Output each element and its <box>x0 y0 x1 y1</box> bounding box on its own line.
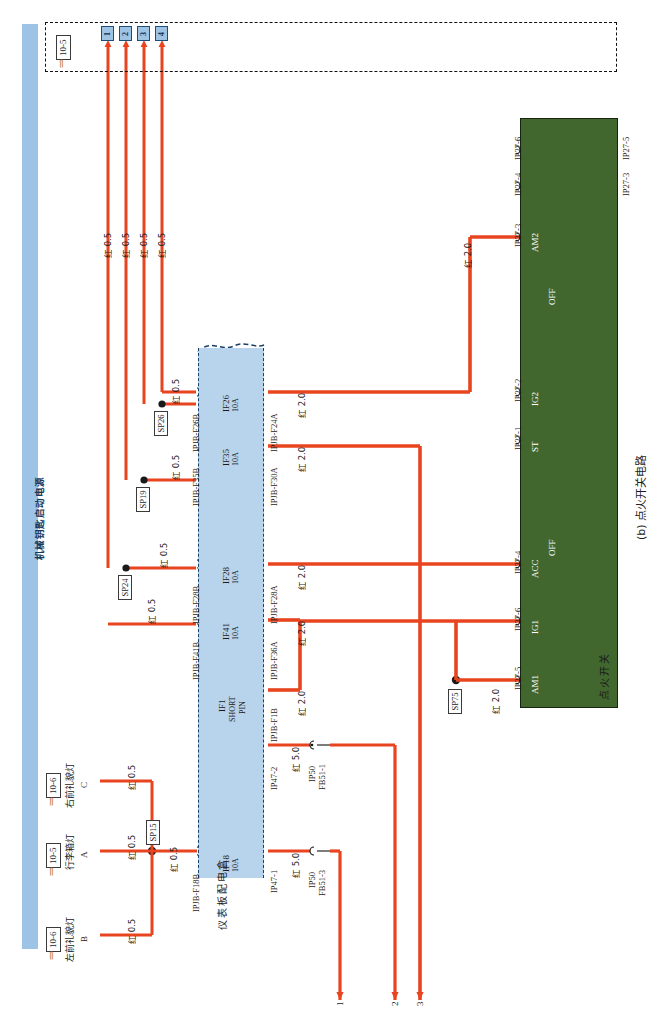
fusebox-extra-terminal-wire: 红 5.0 <box>292 747 301 772</box>
ignition-terminal-ip27-2: IP27-2 <box>514 379 523 402</box>
device-a-name: 行李箱灯 <box>66 834 75 870</box>
ignition-position-am2: AM2 <box>531 233 540 252</box>
bottom-connector-1-name: IP50 <box>308 872 317 888</box>
bottom-wire-number-1: 1 <box>336 1002 345 1007</box>
instrument-panel-junction-box <box>198 348 264 878</box>
ignition-terminal-ip27-5-am1: IP27-5 <box>514 667 523 690</box>
device-c-ref-tag[interactable]: 10-6 <box>46 774 61 799</box>
device-c-pin: C <box>80 782 89 788</box>
fuse-row-4-id: IF1 <box>218 699 227 712</box>
ignition-position-acc: ACC <box>531 559 540 578</box>
fuse-row-4-rating-line2: PIN <box>239 701 247 714</box>
fuse-row-4-rating-line1: SHORT <box>229 696 237 722</box>
fuse-row-3-right-terminal: IPJB-F36A <box>270 641 279 680</box>
ignition-position-ig1: IG1 <box>531 620 540 634</box>
fuse-row-5-rating: 10A <box>232 858 240 872</box>
ignition-position-ig2: IG2 <box>531 392 540 406</box>
fuse-row-1-out-wire: 红 2.0 <box>298 447 307 472</box>
device-b-name: 左前礼貌灯 <box>66 917 75 962</box>
bottom-connector-symbols <box>310 741 330 855</box>
splice-wire-label-sp19: 红 0.5 <box>172 455 181 480</box>
splice-tag-sp75[interactable]: SP75 <box>448 689 462 714</box>
fuse-row-4-right-terminal: IPJB-F1B <box>270 708 279 742</box>
ignition-input-wire-am2: 红 2.0 <box>464 243 473 268</box>
fuse-row-0-right-terminal: IPJB-F24A <box>270 413 279 452</box>
ignition-position-off-upper: OFF <box>548 288 557 305</box>
device-a-pin: A <box>80 852 89 859</box>
bottom-connector-0-pin: FB51-1 <box>318 764 327 790</box>
device-c-name: 右前礼貌灯 <box>66 763 75 808</box>
splice-wire-label-sp24: 红 0.5 <box>160 543 169 568</box>
fuse-row-0-rating: 10A <box>232 398 240 412</box>
ignition-position-am1: AM1 <box>531 675 540 694</box>
ignition-position-st: ST <box>531 441 540 452</box>
fuse-row-2-rating: 10A <box>232 570 240 584</box>
device-b-ref-tag[interactable]: 10-6 <box>46 928 61 953</box>
device-c-wire: 红 0.5 <box>128 765 137 790</box>
fusebox-output-wires <box>268 237 520 1000</box>
bottom-connector-1-pin: FB51-3 <box>318 870 327 896</box>
splice-wire-label-f41: 红 0.5 <box>148 599 157 624</box>
terminal-chip-1[interactable]: 1 <box>101 26 114 41</box>
device-a-ref-tag[interactable]: 10-5 <box>46 844 61 869</box>
spine-label: 机械钥匙启动电源 <box>35 476 45 560</box>
splice-tag-sp19[interactable]: SP19 <box>136 487 150 512</box>
terminal-chip-4-label: 4 <box>158 32 166 36</box>
terminal-chip-3[interactable]: 3 <box>137 26 150 41</box>
ignition-terminal-ip27-3-top: IP27-3 <box>514 224 523 247</box>
splice-tag-sp26[interactable]: SP26 <box>154 411 168 436</box>
terminal-chip-2[interactable]: 2 <box>119 26 132 41</box>
ignition-terminal-ip27-6-ig1: IP27-6 <box>514 608 523 631</box>
left-device-wires <box>100 781 197 935</box>
splice-tag-sp24[interactable]: SP24 <box>118 575 132 600</box>
ignition-terminal-ip27-4-acc: IP27-4 <box>514 551 523 574</box>
splice-tag-sp15[interactable]: SP15 <box>146 820 160 845</box>
ignition-switch-name: 点火开关 <box>600 652 611 700</box>
fuse-row-3-out-wire: 红 2.0 <box>298 621 307 646</box>
fuse-row-5-right-terminal: IP47-1 <box>270 870 279 893</box>
ignition-terminal-ip27-1: IP27-1 <box>514 427 523 450</box>
fuse-row-0-left-terminal: IPJB-F26B <box>192 414 201 452</box>
top-wire-label-4: 红 0.5 <box>158 233 167 258</box>
ignition-terminal-ip27-5-bottom: IP27-5 <box>622 137 631 160</box>
top-wire-label-3: 红 0.5 <box>140 233 149 258</box>
device-b-ref-arrow-icon: ⇒ <box>46 951 57 960</box>
device-a-wire: 红 0.5 <box>128 835 137 860</box>
top-wire-label-1: 红 0.5 <box>104 233 113 258</box>
ignition-terminal-ip27-6-top: IP27-6 <box>514 137 523 160</box>
ignition-position-off-lower: OFF <box>548 539 557 556</box>
terminal-chip-2-label: 2 <box>122 32 130 36</box>
device-c-ref-arrow-icon: ⇒ <box>46 797 57 806</box>
fuse-row-3-rating: 10A <box>232 626 240 640</box>
fuse-row-5-left-terminal: IPJB-F18B <box>192 874 201 912</box>
device-a-ref-arrow-icon: ⇒ <box>46 867 57 876</box>
device-b-pin: B <box>80 936 89 942</box>
bottom-wire-number-3: 3 <box>416 1002 425 1007</box>
top-reference-arrow-icon: ⇒ <box>56 59 67 68</box>
fuse-row-1-rating: 10A <box>232 452 240 466</box>
fuse-row-3-left-terminal: IPJB-F41B <box>192 642 201 680</box>
wiring-diagram-canvas: .w{stroke:#e8441f;fill:none;} .w5{stroke… <box>0 0 663 1011</box>
sp15-to-fuse-wire: 红 0.5 <box>170 847 179 872</box>
top-feed-wires <box>105 40 166 568</box>
terminal-chip-4[interactable]: 4 <box>155 26 168 41</box>
fuse-row-1-left-terminal: IPJB-F35B <box>192 468 201 506</box>
splice-wire-label-sp26: 红 0.5 <box>172 379 181 404</box>
terminal-chip-3-label: 3 <box>140 32 148 36</box>
ignition-terminal-ip27-4-top: IP27-4 <box>514 173 523 196</box>
fuse-row-1-right-terminal: IPJB-F30A <box>270 467 279 506</box>
fuse-row-2-out-wire: 红 2.0 <box>298 565 307 590</box>
fuse-row-0-out-wire: 红 2.0 <box>298 393 307 418</box>
top-reference-tag[interactable]: 10-5 <box>56 36 71 61</box>
terminal-chip-1-label: 1 <box>104 32 112 36</box>
bottom-wire-arrowheads <box>336 992 423 1000</box>
top-wire-label-2: 红 0.5 <box>122 233 131 258</box>
bottom-wire-number-2: 2 <box>391 1002 400 1007</box>
bottom-connector-0-name: IP50 <box>308 766 317 782</box>
device-b-wire: 红 0.5 <box>128 919 137 944</box>
ignition-terminal-ip27-3-bottom: IP27-3 <box>622 173 631 196</box>
fuse-row-4-out-wire: 红 2.0 <box>298 691 307 716</box>
fusebox-extra-terminal: IP47-2 <box>270 767 279 790</box>
fuse-row-5-out-wire: 红 5.0 <box>292 853 301 878</box>
fuse-row-2-left-terminal: IPJB-F28B <box>192 586 201 624</box>
